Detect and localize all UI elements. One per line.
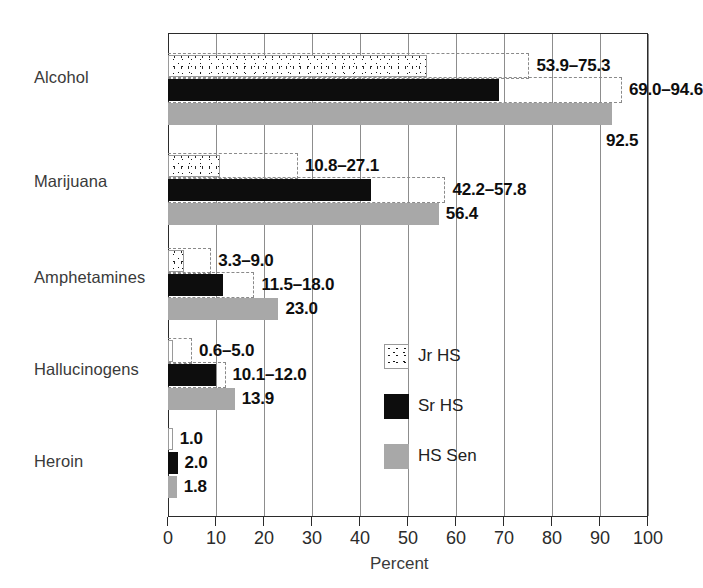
legend-label-jr-hs: Jr HS [418,346,461,366]
value-label-alcohol-hs-sen: 92.5 [606,131,638,151]
x-tick-90 [599,517,600,526]
category-label-alcohol: Alcohol [34,68,89,87]
bar-amphetamines-sr-hs [168,274,223,296]
x-tick-label-100: 100 [633,528,663,549]
bar-alcohol-sr-hs [168,79,499,101]
x-tick-0 [167,517,168,526]
x-tick-label-50: 50 [398,528,418,549]
value-label-alcohol-jr-hs: 53.9–75.3 [536,56,610,76]
x-tick-label-20: 20 [254,528,274,549]
category-label-hallucinogens: Hallucinogens [34,360,139,379]
legend-swatch-hs-sen-icon [384,444,409,469]
value-label-heroin-sr-hs: 2.0 [185,453,208,473]
value-label-hallucinogens-hs-sen: 13.9 [242,389,274,409]
value-label-alcohol-sr-hs: 69.0–94.6 [629,80,703,100]
legend-label-sr-hs: Sr HS [418,396,463,416]
x-tick-label-80: 80 [542,528,562,549]
bar-marijuana-hs-sen [168,203,439,225]
bar-heroin-jr-hs [168,428,173,450]
value-label-heroin-hs-sen: 1.8 [184,477,207,497]
value-label-marijuana-hs-sen: 56.4 [446,204,478,224]
x-tick-100 [647,517,648,526]
x-tick-10 [215,517,216,526]
x-tick-30 [311,517,312,526]
value-label-hallucinogens-jr-hs: 0.6–5.0 [199,341,254,361]
value-label-hallucinogens-sr-hs: 10.1–12.0 [233,365,307,385]
category-label-heroin: Heroin [34,452,83,471]
x-tick-50 [407,517,408,526]
gridline-100 [648,34,649,516]
bar-heroin-sr-hs [168,452,178,474]
legend-swatch-sr-hs-icon [384,394,409,419]
bar-hallucinogens-jr-hs [168,340,173,362]
x-tick-label-60: 60 [446,528,466,549]
value-label-amphetamines-hs-sen: 23.0 [285,299,317,319]
x-tick-label-0: 0 [163,528,173,549]
value-label-amphetamines-jr-hs: 3.3–9.0 [218,251,273,271]
x-tick-label-70: 70 [494,528,514,549]
category-label-marijuana: Marijuana [34,172,107,191]
bar-hallucinogens-hs-sen [168,388,235,410]
bar-hallucinogens-sr-hs [168,364,216,386]
value-label-heroin-jr-hs: 1.0 [180,429,203,449]
x-tick-label-10: 10 [206,528,226,549]
legend-label-hs-sen: HS Sen [418,446,477,466]
x-tick-label-90: 90 [590,528,610,549]
x-tick-20 [263,517,264,526]
bar-amphetamines-jr-hs [168,250,184,272]
x-tick-70 [503,517,504,526]
x-tick-label-30: 30 [302,528,322,549]
bar-marijuana-jr-hs [168,155,220,177]
value-label-amphetamines-sr-hs: 11.5–18.0 [261,275,334,295]
bar-heroin-hs-sen [168,476,177,498]
value-label-marijuana-jr-hs: 10.8–27.1 [305,156,379,176]
bar-amphetamines-hs-sen [168,298,278,320]
bar-alcohol-hs-sen [168,103,612,125]
x-tick-60 [455,517,456,526]
bar-marijuana-sr-hs [168,179,371,201]
legend-swatch-jr-hs-icon [384,344,409,369]
x-tick-40 [359,517,360,526]
x-axis-title: Percent [370,554,429,574]
x-tick-label-40: 40 [350,528,370,549]
bar-alcohol-jr-hs [168,55,427,77]
x-tick-80 [551,517,552,526]
category-label-amphetamines: Amphetamines [34,268,145,287]
value-label-marijuana-sr-hs: 42.2–57.8 [452,180,526,200]
